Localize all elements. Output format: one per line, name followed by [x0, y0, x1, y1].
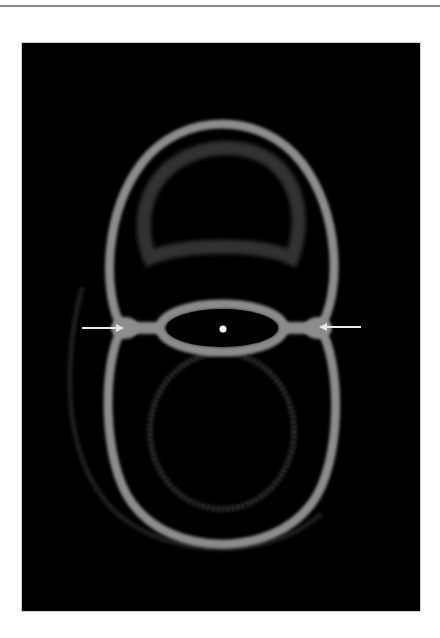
center-dot	[220, 326, 227, 333]
faint-upper-dome	[144, 148, 299, 258]
figure-panel	[22, 43, 420, 611]
faint-lower-circle	[150, 353, 294, 509]
figure-graphic	[22, 43, 420, 611]
top-rule-divider	[0, 5, 440, 7]
